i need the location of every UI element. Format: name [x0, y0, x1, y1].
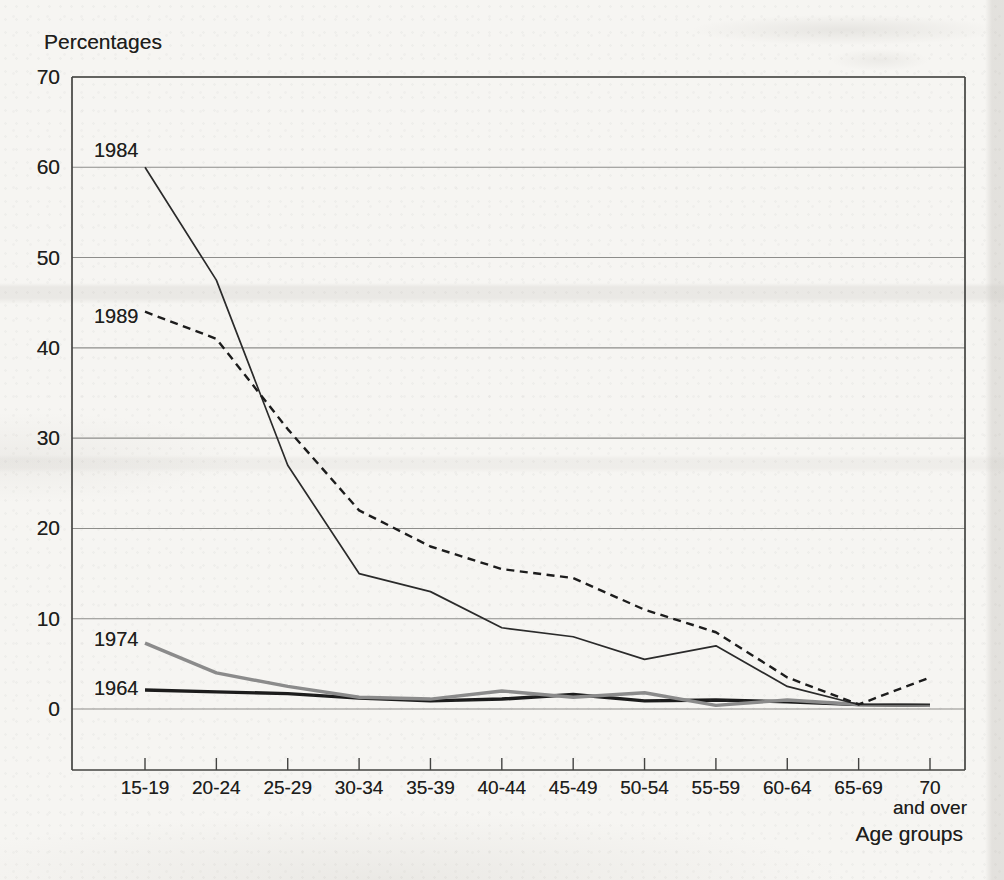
series-line-1989 [145, 312, 930, 705]
series-line-1984 [145, 167, 930, 704]
chart-svg [0, 0, 1004, 880]
scanned-chart-page: Percentages Age groups 1984 1989 1974 19… [0, 0, 1004, 880]
